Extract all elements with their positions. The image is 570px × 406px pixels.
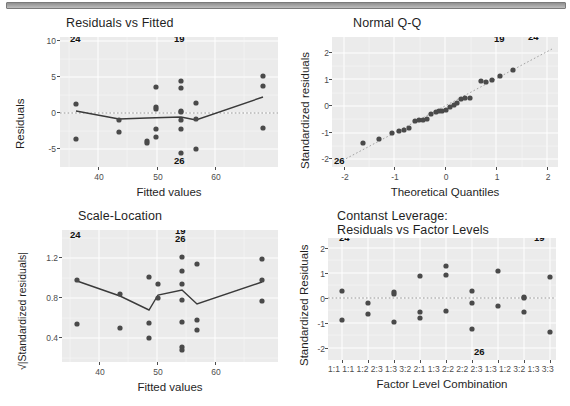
y-tick: 1 bbox=[309, 75, 329, 85]
panel-title: Residuals vs Fitted bbox=[66, 17, 174, 31]
point-label-26: 26 bbox=[175, 233, 186, 244]
point-label-26: 26 bbox=[334, 155, 345, 166]
x-tick: 60 bbox=[205, 172, 227, 182]
tick-mark bbox=[325, 323, 328, 324]
plot-svg bbox=[332, 37, 558, 167]
tick-mark bbox=[98, 167, 99, 170]
tick-mark bbox=[342, 360, 343, 363]
tick-mark bbox=[329, 52, 332, 53]
y-axis-label: Residuals bbox=[14, 99, 26, 150]
tick-mark bbox=[496, 167, 497, 170]
plot-area[interactable]: 24 19 26 bbox=[60, 37, 278, 167]
x-axis-label: Theoretical Quantiles bbox=[332, 186, 558, 198]
point-label-24: 24 bbox=[528, 37, 539, 42]
point-label-24: 24 bbox=[70, 230, 81, 240]
tick-mark bbox=[329, 79, 332, 80]
tick-mark bbox=[325, 298, 328, 299]
y-tick: 1.2 bbox=[34, 253, 58, 263]
tick-mark bbox=[420, 360, 421, 363]
panel-scale-location: Scale-Location √|Standardized residuals| bbox=[0, 208, 285, 406]
tick-mark bbox=[329, 158, 332, 159]
x-tick: 40 bbox=[88, 172, 110, 182]
y-tick: 0.4 bbox=[34, 333, 58, 343]
tick-mark bbox=[344, 167, 345, 170]
y-axis-label: √|Standardized residuals| bbox=[16, 252, 28, 370]
window-scrollbar-strip[interactable] bbox=[6, 2, 566, 9]
tick-mark bbox=[57, 112, 60, 113]
tick-mark bbox=[215, 362, 216, 365]
x-tick: 1 bbox=[486, 172, 508, 182]
point-label-26: 26 bbox=[174, 155, 185, 166]
x-tick: 3:3 bbox=[537, 364, 559, 374]
tick-mark bbox=[329, 105, 332, 106]
panel-title: Contanst Leverage: Residuals vs Factor L… bbox=[337, 210, 489, 237]
tick-mark bbox=[368, 360, 369, 363]
tick-mark bbox=[325, 348, 328, 349]
tick-mark bbox=[59, 257, 62, 258]
tick-mark bbox=[524, 360, 525, 363]
x-tick: 50 bbox=[147, 367, 169, 377]
tick-mark bbox=[57, 148, 60, 149]
point-label-26: 26 bbox=[474, 346, 485, 357]
plot-area[interactable]: 19 24 26 bbox=[332, 37, 558, 167]
y-tick: 2 bbox=[307, 244, 325, 254]
y-tick: 5 bbox=[34, 72, 56, 82]
tick-mark bbox=[446, 360, 447, 363]
x-tick: 2 bbox=[537, 172, 559, 182]
x-axis-label: Fitted values bbox=[62, 381, 278, 393]
plot-area[interactable]: 24 19 26 bbox=[62, 230, 278, 362]
plot-area[interactable]: 24 19 26 bbox=[328, 238, 556, 360]
point-label-19: 19 bbox=[174, 37, 185, 44]
diagnostic-plot-grid: Residuals vs Fitted Residuals bbox=[0, 9, 570, 406]
plot-svg bbox=[62, 230, 278, 362]
y-tick: -2 bbox=[309, 154, 329, 164]
tick-mark bbox=[445, 167, 446, 170]
x-tick: 0 bbox=[435, 172, 457, 182]
y-tick: -2 bbox=[307, 344, 325, 354]
x-tick: 40 bbox=[89, 367, 111, 377]
tick-mark bbox=[550, 360, 551, 363]
tick-mark bbox=[329, 132, 332, 133]
x-tick: -2 bbox=[334, 172, 356, 182]
y-tick: 0 bbox=[307, 294, 325, 304]
x-tick-row: 1:11:11:22:31:33:22:11:32:22:22:31:31:23… bbox=[328, 364, 556, 376]
x-tick: -1 bbox=[384, 172, 406, 182]
panel-residuals-vs-fitted: Residuals vs Fitted Residuals bbox=[0, 9, 285, 207]
plot-svg bbox=[60, 37, 278, 167]
tick-mark bbox=[99, 362, 100, 365]
x-axis-label: Fitted values bbox=[60, 186, 278, 198]
tick-mark bbox=[157, 167, 158, 170]
y-tick: -5 bbox=[34, 144, 56, 154]
tick-mark bbox=[472, 360, 473, 363]
point-label-19: 19 bbox=[494, 37, 505, 44]
x-tick: 50 bbox=[147, 172, 169, 182]
panel-title: Normal Q-Q bbox=[353, 17, 421, 31]
point-label-19: 19 bbox=[534, 238, 545, 243]
panel-normal-qq: Normal Q-Q Standardized residuals bbox=[285, 9, 570, 207]
tick-mark bbox=[325, 273, 328, 274]
tick-mark bbox=[498, 360, 499, 363]
panel-constant-leverage: Contanst Leverage: Residuals vs Factor L… bbox=[285, 208, 570, 406]
tick-mark bbox=[215, 167, 216, 170]
x-tick: 60 bbox=[205, 367, 227, 377]
tick-mark bbox=[59, 337, 62, 338]
point-label-24: 24 bbox=[339, 238, 350, 243]
tick-mark bbox=[547, 167, 548, 170]
tick-mark bbox=[57, 40, 60, 41]
tick-mark bbox=[157, 362, 158, 365]
y-tick: 0 bbox=[34, 108, 56, 118]
y-tick: -1 bbox=[309, 128, 329, 138]
y-tick: 0.8 bbox=[34, 293, 58, 303]
y-tick: -1 bbox=[307, 319, 325, 329]
tick-mark bbox=[394, 167, 395, 170]
plot-svg bbox=[328, 238, 556, 360]
y-tick: 10 bbox=[34, 36, 56, 46]
tick-mark bbox=[57, 76, 60, 77]
point-label-24: 24 bbox=[70, 37, 81, 44]
tick-mark bbox=[59, 297, 62, 298]
tick-mark bbox=[325, 248, 328, 249]
x-axis-label: Factor Level Combination bbox=[328, 378, 556, 390]
y-tick: 2 bbox=[309, 48, 329, 58]
panel-title: Scale-Location bbox=[78, 210, 162, 224]
tick-mark bbox=[394, 360, 395, 363]
